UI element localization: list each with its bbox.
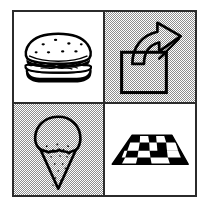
checkerboard-perspective-icon [105, 104, 196, 196]
panel-grid: Sandwich [12, 10, 197, 197]
ice-cream-cone-icon [14, 104, 103, 196]
cone-shape [41, 149, 76, 188]
panel-checkerboard[interactable]: Checkerboard [105, 104, 196, 196]
panel-arrow-out-of-box[interactable]: Arrow out of box [105, 12, 196, 104]
figure-canvas: Sandwich [0, 0, 210, 210]
sandwich-icon [14, 12, 103, 102]
checkerboard-plane [112, 135, 188, 164]
curved-arrow-out-of-box-icon [105, 12, 196, 102]
panel-ice-cream-cone[interactable]: Ice cream cone [14, 104, 105, 196]
panel-sandwich[interactable]: Sandwich [14, 12, 105, 104]
scoop-shape [35, 116, 80, 153]
